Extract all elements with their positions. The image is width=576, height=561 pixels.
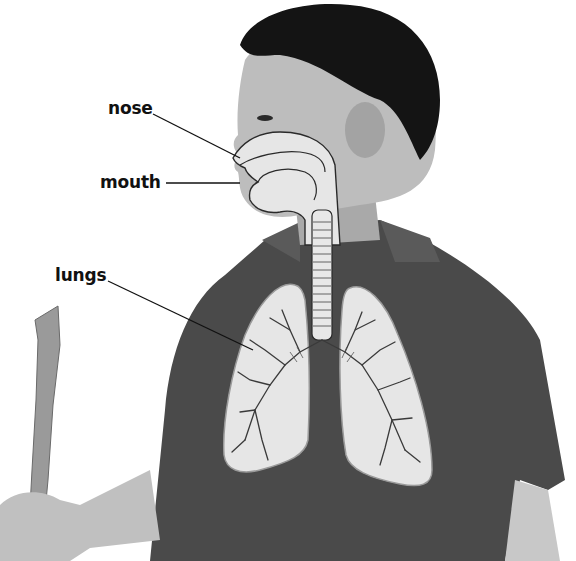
mouth-label: mouth bbox=[100, 172, 161, 192]
diagram-stage: nose mouth lungs bbox=[0, 0, 576, 561]
eye bbox=[257, 115, 273, 121]
lungs-label: lungs bbox=[55, 265, 106, 285]
nose-label: nose bbox=[108, 98, 153, 118]
ear bbox=[345, 102, 385, 158]
trachea bbox=[312, 210, 332, 340]
nose-leader-line bbox=[153, 114, 240, 158]
hand bbox=[0, 470, 160, 561]
